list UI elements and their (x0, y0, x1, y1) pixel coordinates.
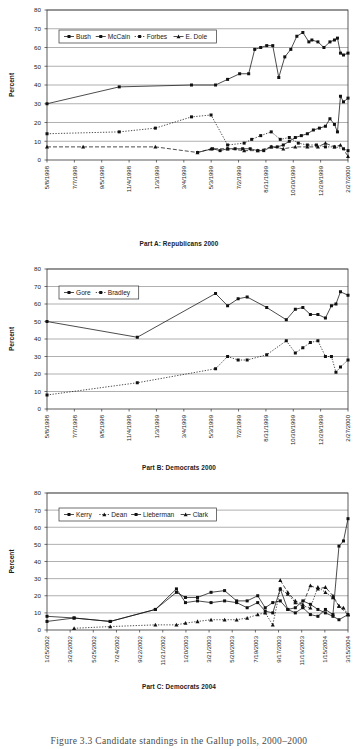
x-tick-label: 7/7/1998 (72, 165, 78, 189)
x-tick-label: 8/31/1999 (263, 414, 269, 441)
data-point (72, 626, 76, 630)
data-point (235, 599, 238, 602)
data-point (246, 599, 249, 602)
y-tick-label: 0 (38, 626, 42, 633)
data-point (310, 39, 313, 42)
data-point (295, 35, 298, 38)
data-point (109, 620, 112, 623)
data-point (237, 297, 240, 300)
data-point (283, 55, 286, 58)
chart-svg-part-b: 010203040506070805/8/19987/7/19989/5/199… (0, 259, 358, 464)
legend-label: Dean (111, 511, 127, 518)
y-tick-label: 50 (34, 318, 41, 325)
data-point (297, 142, 300, 145)
chart-panel-part-b: 010203040506070805/8/19987/7/19989/5/199… (0, 259, 358, 471)
data-point (294, 606, 297, 609)
y-tick-label: 70 (34, 283, 41, 290)
data-point (238, 72, 241, 75)
data-point (184, 596, 187, 599)
data-point (309, 613, 312, 616)
y-tick-label: 30 (34, 575, 41, 582)
series-line (47, 143, 348, 156)
data-point (324, 611, 327, 614)
data-point (339, 52, 342, 55)
y-tick-label: 20 (34, 592, 41, 599)
data-point (339, 95, 342, 98)
part-b-caption: Part B: Democrats 2000 (0, 464, 358, 471)
data-point (301, 306, 304, 309)
chart-panel-part-a: 010203040506070805/8/19987/7/19989/5/199… (0, 0, 358, 247)
chart-part-a: 010203040506070805/8/19987/7/19989/5/199… (0, 0, 358, 240)
data-point (342, 100, 345, 103)
x-tick-label: 8/31/1999 (263, 165, 269, 192)
data-point (324, 125, 327, 128)
legend-label: Lieberman (143, 511, 174, 518)
data-point (279, 138, 282, 141)
legend-label: Forbes (147, 33, 168, 40)
data-point (265, 306, 268, 309)
data-point (337, 545, 340, 548)
data-point (286, 608, 289, 611)
data-point (190, 115, 193, 118)
data-point (243, 142, 246, 145)
chart-svg-part-a: 010203040506070805/8/19987/7/19989/5/199… (0, 0, 358, 240)
data-point (46, 615, 49, 618)
x-tick-label: 3/21/2003 (206, 635, 212, 662)
data-point (307, 40, 310, 43)
x-tick-label: 7/19/2003 (253, 635, 259, 662)
data-point (196, 599, 199, 602)
x-tick-label: 5/20/2003 (229, 635, 235, 662)
data-point (226, 355, 229, 358)
x-tick-label: 12/29/1999 (318, 165, 324, 196)
figure-page: 010203040506070805/8/19987/7/19989/5/199… (0, 0, 358, 749)
data-point (347, 359, 350, 362)
data-point (226, 304, 229, 307)
y-axis-title: Percent (8, 326, 15, 351)
data-point (226, 144, 229, 147)
data-point (46, 320, 49, 323)
data-point (153, 623, 157, 627)
y-tick-label: 70 (34, 25, 41, 32)
x-tick-label: 5/8/1998 (44, 414, 50, 438)
data-point (334, 303, 337, 306)
data-point (347, 294, 350, 297)
data-point (264, 606, 267, 609)
data-point (246, 296, 249, 299)
legend-label: Kerry (76, 511, 92, 519)
y-tick-label: 70 (34, 507, 41, 514)
data-point (285, 339, 288, 342)
y-tick-label: 40 (34, 335, 41, 342)
y-tick-label: 10 (34, 609, 41, 616)
data-point (324, 608, 327, 611)
y-tick-label: 60 (34, 44, 41, 51)
y-tick-label: 20 (34, 119, 41, 126)
x-tick-label: 9/22/2002 (137, 635, 143, 662)
series-line (47, 115, 348, 151)
x-tick-label: 9/5/1998 (99, 414, 105, 438)
x-tick-label: 3/4/1999 (181, 165, 187, 189)
x-tick-label: 10/30/1999 (290, 165, 296, 196)
data-point (118, 85, 121, 88)
data-point (330, 304, 333, 307)
data-point (342, 539, 345, 542)
data-point (271, 601, 274, 604)
series-bradley (46, 339, 350, 396)
plot-area: 010203040506070805/8/19987/7/19989/5/199… (8, 265, 351, 445)
data-point (339, 290, 342, 293)
data-point (337, 618, 340, 621)
data-point (68, 513, 71, 516)
data-point (334, 371, 337, 374)
data-point (196, 619, 200, 623)
data-point (209, 618, 213, 622)
y-tick-label: 0 (38, 156, 42, 163)
x-tick-label: 7/2/1999 (236, 414, 242, 438)
data-point (175, 591, 178, 594)
data-point (219, 149, 222, 152)
y-tick-label: 30 (34, 100, 41, 107)
data-point (46, 132, 49, 135)
data-point (312, 129, 315, 132)
data-point (289, 48, 292, 51)
data-point (285, 318, 288, 321)
data-point (333, 123, 336, 126)
data-point (347, 52, 350, 55)
